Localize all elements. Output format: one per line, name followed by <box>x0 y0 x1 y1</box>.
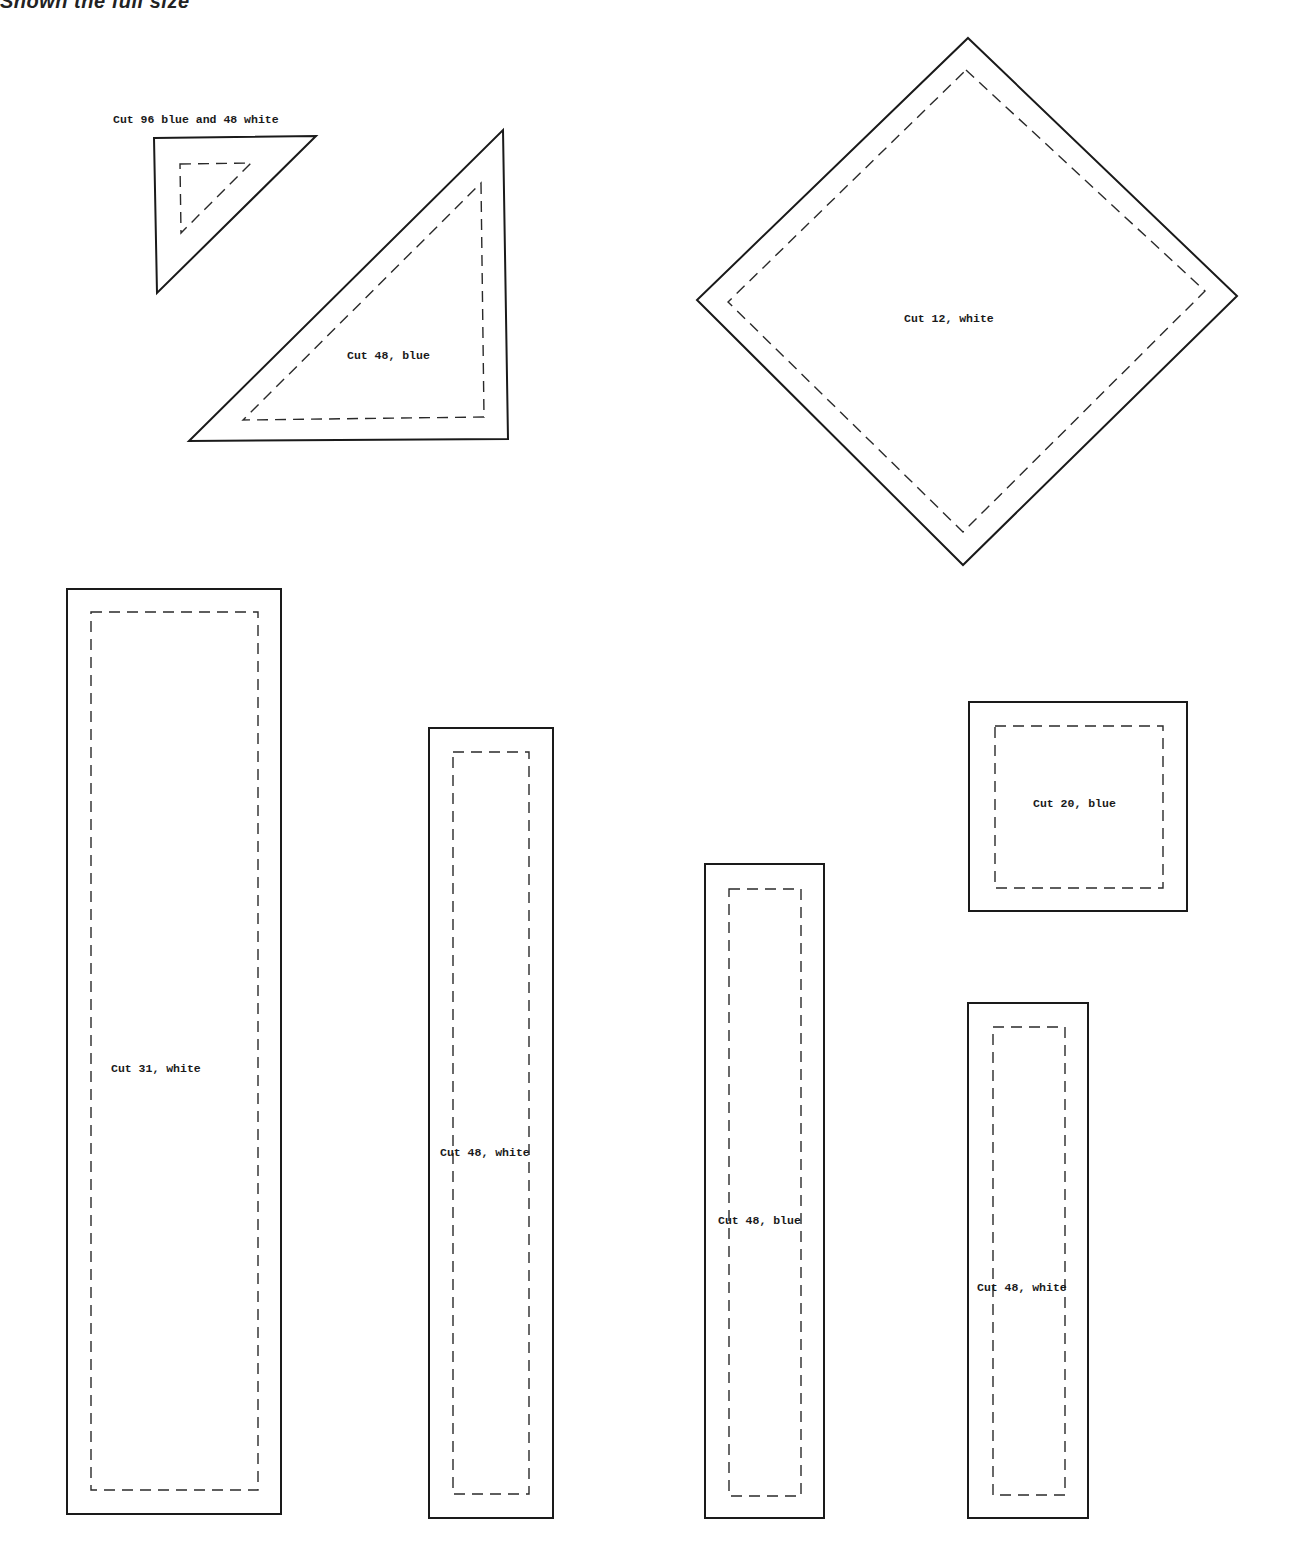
piece-small-triangle <box>154 136 316 293</box>
diamond-seam-line <box>728 70 1205 532</box>
small-triangle-seam-line <box>180 163 251 233</box>
large-triangle-seam-line <box>243 183 484 420</box>
strip-white-b-cut-line <box>968 1003 1088 1518</box>
strip-white-b-seam-line <box>993 1027 1065 1495</box>
piece-long-strip <box>67 589 281 1514</box>
label-diamond-square: Cut 12, white <box>904 312 994 325</box>
long-strip-seam-line <box>91 612 258 1490</box>
long-strip-cut-line <box>67 589 281 1514</box>
small-triangle-cut-line <box>154 136 316 293</box>
strip-white-a-cut-line <box>429 728 553 1518</box>
label-large-triangle: Cut 48, blue <box>347 349 430 362</box>
diamond-cut-line <box>697 38 1237 565</box>
label-long-strip: Cut 31, white <box>111 1062 201 1075</box>
piece-strip-blue <box>705 864 824 1518</box>
strip-blue-cut-line <box>705 864 824 1518</box>
pattern-pieces-drawing <box>0 0 1297 1558</box>
label-small-triangle: Cut 96 blue and 48 white <box>113 113 279 126</box>
piece-diamond-square <box>697 38 1237 565</box>
strip-blue-seam-line <box>729 889 801 1496</box>
label-strip-blue: Cut 48, blue <box>718 1214 801 1227</box>
piece-strip-white-a <box>429 728 553 1518</box>
label-strip-white-a: Cut 48, white <box>440 1146 530 1159</box>
piece-strip-white-b <box>968 1003 1088 1518</box>
label-small-square: Cut 20, blue <box>1033 797 1116 810</box>
strip-white-a-seam-line <box>453 752 529 1494</box>
label-strip-white-b: Cut 48, white <box>977 1281 1067 1294</box>
